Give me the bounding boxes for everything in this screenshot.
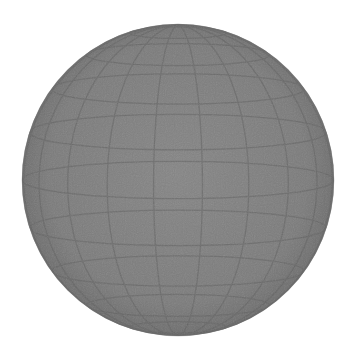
sphere-texture: [22, 24, 334, 336]
sphere-scene: [0, 0, 360, 360]
